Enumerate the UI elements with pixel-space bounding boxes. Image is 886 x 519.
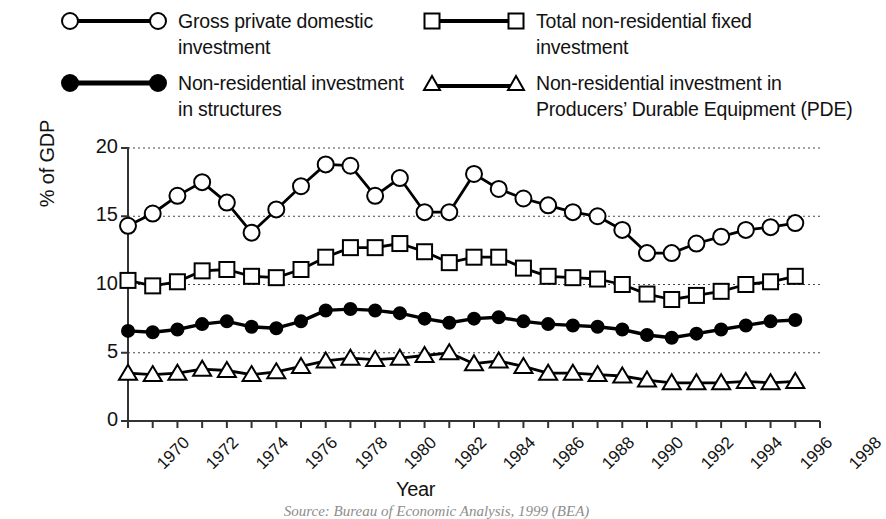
x-tick-label: 1986 [549,433,590,474]
x-tick-label: 1992 [697,433,738,474]
x-tick-label: 1972 [203,433,244,474]
x-tick-label: 1996 [796,433,837,474]
x-tick-label: 1974 [252,433,293,474]
x-tick-label: 1976 [301,433,342,474]
x-tick-label: 1980 [400,433,441,474]
x-tick-label: 1978 [351,433,392,474]
x-tick-label: 1994 [746,433,787,474]
x-tick-label: 1970 [153,433,194,474]
x-tick-label: 1990 [647,433,688,474]
x-tick-label: 1984 [499,433,540,474]
x-tick-label: 1988 [598,433,639,474]
x-tick-label: 1998 [845,433,886,474]
x-tick-label: 1982 [450,433,491,474]
